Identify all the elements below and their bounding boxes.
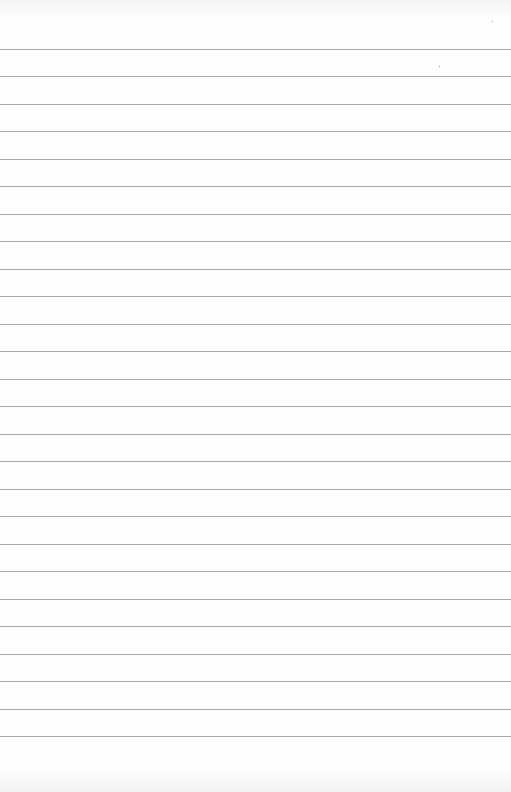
ruled-line (0, 571, 511, 572)
ruled-line (0, 214, 511, 215)
ruled-line (0, 434, 511, 435)
ruled-line (0, 104, 511, 105)
lined-paper-sheet (0, 0, 511, 792)
ruled-line (0, 351, 511, 352)
ruled-line (0, 516, 511, 517)
ruled-line (0, 654, 511, 655)
ruled-line (0, 489, 511, 490)
paper-speck (439, 66, 440, 67)
ruled-line (0, 599, 511, 600)
ruled-line (0, 626, 511, 627)
ruled-line (0, 186, 511, 187)
ruled-line (0, 406, 511, 407)
ruled-line (0, 131, 511, 132)
ruled-line (0, 159, 511, 160)
ruled-line (0, 379, 511, 380)
ruled-line (0, 709, 511, 710)
ruled-line (0, 76, 511, 77)
ruled-line (0, 461, 511, 462)
ruled-line (0, 736, 511, 737)
ruled-line (0, 681, 511, 682)
ruled-line (0, 269, 511, 270)
ruled-line (0, 49, 511, 50)
ruled-line (0, 241, 511, 242)
paper-speck (492, 21, 493, 22)
ruled-line (0, 296, 511, 297)
ruled-line (0, 324, 511, 325)
ruled-line (0, 544, 511, 545)
